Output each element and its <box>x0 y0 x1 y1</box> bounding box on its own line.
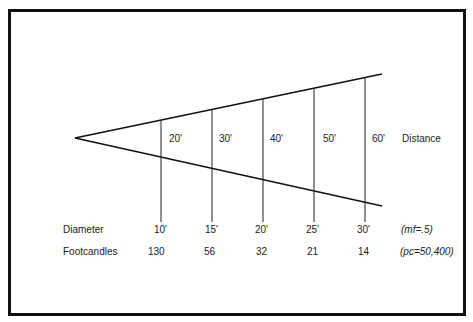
footcandles-row-label: Footcandles <box>63 246 117 258</box>
footcandles-value-3: 21 <box>307 246 318 258</box>
diameter-value-4: 30' <box>357 224 370 236</box>
diameter-value-0: 10' <box>154 224 167 236</box>
distance-row-label: Distance <box>402 133 441 145</box>
beam-spread-diagram <box>0 0 473 322</box>
beam-top-edge <box>75 74 382 138</box>
diameter-value-2: 20' <box>255 224 268 236</box>
diameter-value-3: 25' <box>306 224 319 236</box>
distance-label-4: 60' <box>372 133 385 145</box>
footcandles-value-1: 56 <box>204 246 215 258</box>
distance-label-3: 50' <box>323 133 336 145</box>
mf-note: (mf=.5) <box>401 224 433 236</box>
diameter-value-1: 15' <box>205 224 218 236</box>
diameter-row-label: Diameter <box>63 224 104 236</box>
distance-label-2: 40' <box>270 133 283 145</box>
footcandles-value-2: 32 <box>256 246 267 258</box>
pc-note: (pc=50,400) <box>400 246 454 258</box>
beam-bottom-edge <box>75 138 382 206</box>
distance-label-1: 30' <box>219 133 232 145</box>
footcandles-value-4: 14 <box>358 246 369 258</box>
footcandles-value-0: 130 <box>148 246 165 258</box>
distance-label-0: 20' <box>169 133 182 145</box>
